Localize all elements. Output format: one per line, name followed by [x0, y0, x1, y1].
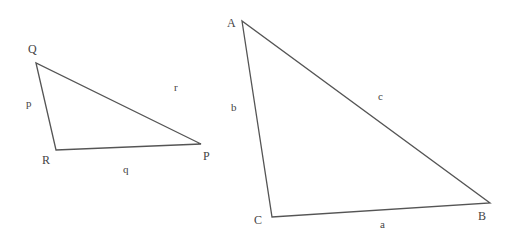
triangle-pqr: Q R P p q r [26, 42, 210, 175]
vertex-label-p: P [203, 149, 210, 163]
vertex-label-b: B [478, 209, 486, 223]
triangle-abc-outline [242, 21, 490, 217]
vertex-label-c: C [254, 213, 262, 227]
vertex-label-a: A [227, 16, 236, 30]
triangle-diagram: Q R P p q r A C B b c a [0, 0, 516, 239]
triangle-pqr-outline [36, 63, 201, 150]
side-label-q: q [123, 163, 129, 175]
vertex-label-q: Q [28, 42, 37, 56]
side-label-b: b [231, 101, 237, 113]
side-label-r: r [174, 81, 178, 93]
vertex-label-r: R [42, 153, 50, 167]
side-label-c: c [378, 90, 383, 102]
side-label-p: p [26, 97, 32, 109]
triangle-abc: A C B b c a [227, 16, 490, 230]
side-label-a: a [380, 218, 385, 230]
